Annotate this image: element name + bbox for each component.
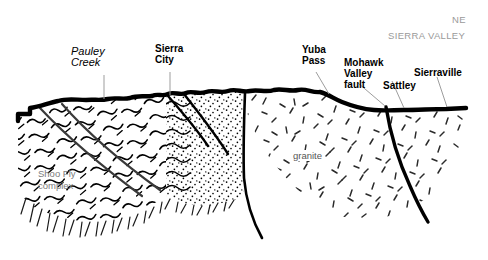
locality-label-yuba-pass: Yuba Pass bbox=[302, 44, 326, 66]
locality-label-pauley-creek: Pauley Creek bbox=[71, 46, 105, 68]
locality-label-sierra-city: Sierra City bbox=[155, 43, 183, 65]
structure-label-mohawk-valley-fault: Mohawk Valley fault bbox=[344, 57, 383, 90]
unit-label-granite: granite bbox=[292, 150, 323, 161]
locality-label-sierraville: Sierraville bbox=[414, 67, 462, 78]
locality-label-sattley: Sattley bbox=[383, 80, 416, 91]
region-label-sierra-valley: SIERRA VALLEY bbox=[388, 30, 465, 41]
unit-stippled bbox=[160, 88, 252, 213]
unit-label-shoo-fly-complex: Shoo Fly complex bbox=[38, 168, 76, 192]
orientation-label-ne: NE bbox=[452, 14, 466, 25]
geologic-cross-section-figure: SIERRA VALLEY NE Pauley Creek Sierra Cit… bbox=[0, 0, 488, 260]
